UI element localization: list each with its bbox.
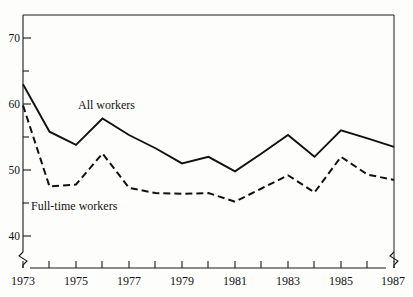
series-line-full-time-workers (23, 105, 394, 201)
x-label-1985: 1985 (329, 274, 353, 288)
x-label-1973: 1973 (11, 274, 35, 288)
series-annotation-full-time-workers: Full-time workers (31, 199, 118, 213)
frame-top-right-border (23, 15, 394, 262)
x-label-1987: 1987 (381, 274, 405, 288)
chart-canvas: 70 60 50 40 1973 1975 1977 (0, 0, 413, 297)
plot-frame (23, 15, 394, 262)
x-tick-labels: 1973 1975 1977 1979 1981 1983 1985 1987 (11, 274, 405, 288)
x-axis (30, 252, 398, 268)
y-axis (19, 15, 27, 268)
line-chart-figure: 70 60 50 40 1973 1975 1977 (0, 0, 413, 297)
y-tick-labels: 70 60 50 40 (9, 32, 21, 242)
x-label-1977: 1977 (117, 274, 141, 288)
y-label-40: 40 (9, 230, 21, 242)
x-ticks (23, 261, 394, 268)
y-label-70: 70 (9, 32, 21, 44)
x-label-1983: 1983 (276, 274, 300, 288)
x-label-1979: 1979 (170, 274, 194, 288)
y-label-60: 60 (9, 98, 21, 110)
series-annotation-all-workers: All workers (78, 98, 135, 112)
x-label-1981: 1981 (223, 274, 247, 288)
x-label-1975: 1975 (64, 274, 88, 288)
y-label-50: 50 (9, 164, 21, 176)
